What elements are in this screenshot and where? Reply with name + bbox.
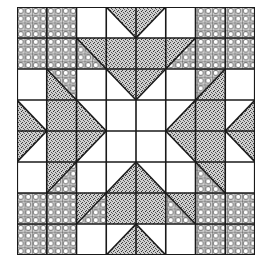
quilt-cell (77, 193, 107, 224)
quilt-cell (166, 69, 196, 100)
quilt-cell (166, 100, 196, 131)
quilt-cell (136, 131, 166, 162)
quilt-cell (196, 224, 226, 255)
quilt-cell (166, 162, 196, 193)
quilt-cell (47, 7, 77, 38)
quilt-cell (225, 193, 255, 224)
quilt-cell (166, 38, 196, 69)
quilt-cell (196, 162, 226, 193)
quilt-cell (77, 162, 107, 193)
quilt-cell (106, 224, 136, 255)
quilt-cell (17, 100, 47, 131)
quilt-cell (106, 193, 136, 224)
quilt-cell (225, 7, 255, 38)
quilt-cell (77, 7, 107, 38)
quilt-cell (106, 38, 136, 69)
quilt-cell (166, 131, 196, 162)
quilt-cell (17, 38, 47, 69)
quilt-cell (106, 162, 136, 193)
quilt-cell (17, 224, 47, 255)
quilt-cell (106, 7, 136, 38)
quilt-cell (17, 131, 47, 162)
quilt-cell (17, 69, 47, 100)
quilt-cell (77, 38, 107, 69)
quilt-block (17, 7, 255, 255)
quilt-cell (106, 100, 136, 131)
quilt-cell (47, 69, 77, 100)
quilt-cell (136, 69, 166, 100)
quilt-cell (47, 224, 77, 255)
quilt-cell (136, 193, 166, 224)
quilt-cell (225, 38, 255, 69)
quilt-cell (166, 7, 196, 38)
quilt-cell (17, 193, 47, 224)
quilt-cell (166, 193, 196, 224)
quilt-cell (136, 38, 166, 69)
quilt-cell (196, 69, 226, 100)
quilt-cell (136, 162, 166, 193)
quilt-cell (106, 131, 136, 162)
quilt-cell (225, 131, 255, 162)
quilt-cell (166, 224, 196, 255)
quilt-cell (225, 224, 255, 255)
quilt-cell (136, 224, 166, 255)
quilt-cell (196, 7, 226, 38)
quilt-cell (17, 162, 47, 193)
quilt-cell (77, 131, 107, 162)
quilt-cell (196, 100, 226, 131)
quilt-cell (47, 193, 77, 224)
quilt-cell (47, 131, 77, 162)
quilt-cell (136, 100, 166, 131)
quilt-cell (196, 38, 226, 69)
quilt-cell (106, 69, 136, 100)
quilt-cell (225, 100, 255, 131)
quilt-cell (196, 131, 226, 162)
quilt-cell (17, 7, 47, 38)
quilt-cell (47, 162, 77, 193)
quilt-cell (196, 193, 226, 224)
quilt-cell (47, 38, 77, 69)
quilt-cell (77, 100, 107, 131)
quilt-cell (225, 69, 255, 100)
quilt-cell (47, 100, 77, 131)
quilt-cell (77, 224, 107, 255)
quilt-cell (77, 69, 107, 100)
quilt-cell (225, 162, 255, 193)
quilt-cell (136, 7, 166, 38)
